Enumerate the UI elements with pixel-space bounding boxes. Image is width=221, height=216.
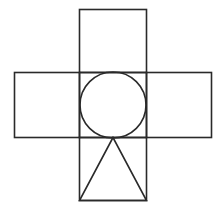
bottom-square	[80, 138, 147, 201]
left-rectangle	[15, 73, 80, 138]
right-rectangle	[147, 73, 212, 138]
top-square	[80, 10, 147, 73]
inscribed-circle	[80, 72, 146, 138]
cross-net-diagram	[0, 0, 221, 216]
isosceles-triangle	[80, 138, 147, 201]
